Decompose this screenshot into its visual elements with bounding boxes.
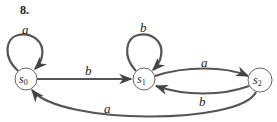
edge-s1-s2: a (155, 55, 248, 76)
edge-label: b (140, 20, 147, 35)
edge-label: a (22, 22, 29, 37)
state-s1: s1 (133, 68, 155, 90)
edge-label: b (85, 63, 92, 78)
state-s2: s2 (248, 68, 272, 92)
edge-s0-s0: a (7, 22, 42, 71)
edge-s1-s1: b (127, 20, 161, 71)
state-s0: s0 (15, 68, 37, 90)
edge-label: b (199, 94, 206, 109)
edge-s2-s0: a (32, 90, 256, 117)
edge-label: a (104, 101, 111, 116)
state-diagram: a b b a b a s0 s1 s2 (0, 0, 277, 122)
edge-s0-s1: b (37, 63, 131, 79)
edge-label: a (201, 55, 208, 70)
